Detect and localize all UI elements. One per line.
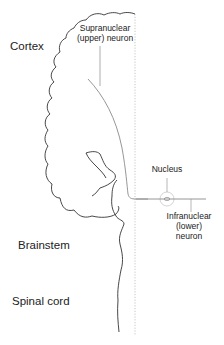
upper-neuron-line2: (upper) neuron (74, 34, 136, 44)
upper-neuron-axon (88, 79, 148, 199)
label-upper-neuron: Supranuclear (upper) neuron (74, 24, 136, 44)
lower-neuron-line3: neuron (160, 232, 218, 242)
label-cortex: Cortex (10, 40, 44, 53)
brainstem-fold (86, 152, 115, 196)
label-nucleus: Nucleus (145, 165, 189, 175)
brainstem-column (112, 180, 124, 332)
label-brainstem: Brainstem (18, 239, 70, 252)
label-spinal-cord: Spinal cord (12, 295, 70, 308)
label-lower-neuron: Infranuclear (lower) neuron (160, 212, 218, 241)
diagram-canvas: Cortex Brainstem Spinal cord Supranuclea… (0, 0, 224, 345)
brainstem-fold-inner (86, 153, 106, 178)
